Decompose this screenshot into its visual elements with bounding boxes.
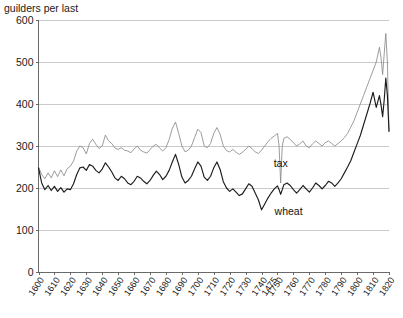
y-tick-label: 300 [16,140,34,152]
y-tick-label: 600 [16,14,34,26]
series-annotation-tax: tax [274,157,289,169]
y-tick-label: 100 [16,224,34,236]
y-tick-label: 500 [16,56,34,68]
y-tick-label: 400 [16,98,34,110]
series-annotation-wheat: wheat [274,205,303,217]
chart-container: guilders per last 0100200300400500600 16… [0,0,403,318]
y-tick-label: 200 [16,182,34,194]
chart-background [0,0,403,318]
y-tick-label: 0 [28,266,34,278]
price-chart: guilders per last 0100200300400500600 16… [0,0,403,318]
y-axis-title: guilders per last [4,2,78,14]
